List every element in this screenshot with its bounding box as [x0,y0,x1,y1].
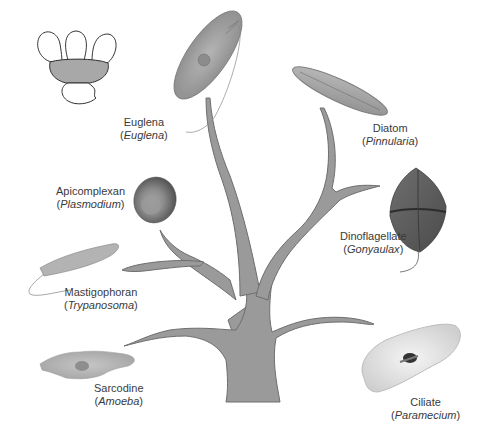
protist-group-icon [38,31,116,104]
label-mastigophoran: Mastigophoran (Trypanosoma) [64,286,138,312]
common-name: Sarcodine [94,382,144,395]
common-name: Dinoflagellate [340,230,407,243]
diagram-canvas [0,0,481,436]
genus-name: (Euglena) [120,129,168,142]
genus-name: (Gonyaulax) [340,243,407,256]
label-apicomplexan: Apicomplexan (Plasmodium) [56,185,125,211]
genus-name: (Pinnularia) [362,135,418,148]
diatom-illustration [288,59,392,123]
genus-name: (Trypanosoma) [64,299,138,312]
common-name: Ciliate [391,396,460,409]
label-diatom: Diatom (Pinnularia) [362,122,418,148]
genus-name: (Paramecium) [391,409,460,422]
common-name: Mastigophoran [64,286,138,299]
apicomplexan-illustration [129,172,181,227]
label-euglena: Euglena (Euglena) [120,116,168,142]
sarcodine-illustration [40,351,134,379]
common-name: Diatom [362,122,418,135]
dinoflagellate-illustration [390,168,446,272]
label-sarcodine: Sarcodine (Amoeba) [94,382,144,408]
common-name: Euglena [120,116,168,129]
genus-name: (Amoeba) [94,395,144,408]
label-ciliate: Ciliate (Paramecium) [391,396,460,422]
common-name: Apicomplexan [56,185,125,198]
label-dinoflagellate: Dinoflagellate (Gonyaulax) [340,230,407,256]
genus-name: (Plasmodium) [56,198,125,211]
ciliate-illustration [362,324,460,392]
